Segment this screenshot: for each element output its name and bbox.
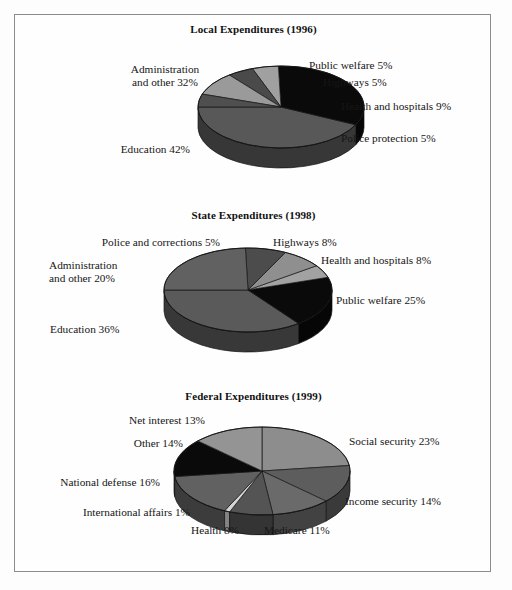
label-social-security-federal: Social security 23% bbox=[349, 435, 439, 448]
label-education-local: Education 42% bbox=[35, 143, 190, 156]
chart-federal-expenditures: Federal Expenditures (1999) Net interest… bbox=[15, 373, 492, 573]
label-highways-state: Highways 8% bbox=[273, 236, 337, 249]
label-net-interest-federal: Net interest 13% bbox=[55, 414, 205, 427]
label-administration-state: Administration and other 20% bbox=[49, 259, 117, 286]
chart-local-expenditures: Local Expenditures (1996) Administration… bbox=[15, 15, 492, 195]
chart-title-federal: Federal Expenditures (1999) bbox=[15, 390, 492, 402]
label-administration-local-line1: Administration bbox=[131, 63, 199, 75]
pie-chart-state bbox=[153, 238, 343, 363]
figure-frame: Local Expenditures (1996) Administration… bbox=[14, 14, 491, 572]
label-other-federal: Other 14% bbox=[35, 437, 183, 450]
pie-slice bbox=[164, 248, 248, 290]
label-administration-state-line2: and other 20% bbox=[49, 272, 115, 284]
chart-title-local: Local Expenditures (1996) bbox=[15, 23, 492, 35]
label-administration-local-line2: and other 32% bbox=[132, 76, 198, 88]
label-national-defense-federal: National defense 16% bbox=[15, 476, 160, 489]
pie-slice bbox=[262, 427, 349, 471]
chart-title-state: State Expenditures (1998) bbox=[15, 209, 492, 221]
label-administration-state-line1: Administration bbox=[49, 259, 117, 271]
page-canvas: Local Expenditures (1996) Administration… bbox=[0, 0, 512, 590]
label-public-welfare-state: Public welfare 25% bbox=[336, 294, 425, 307]
label-public-welfare-local: Public welfare 5% bbox=[309, 59, 392, 72]
label-health-federal: Health 8% bbox=[191, 524, 239, 537]
label-police-corrections-state: Police and corrections 5% bbox=[35, 236, 220, 249]
label-international-affairs-federal: International affairs 1% bbox=[15, 506, 190, 519]
label-education-state: Education 36% bbox=[50, 323, 119, 336]
chart-state-expenditures: State Expenditures (1998) Police and cor… bbox=[15, 195, 492, 373]
label-medicare-federal: Medicare 11% bbox=[264, 524, 330, 537]
label-administration-local: Administration and other 32% bbox=[100, 63, 230, 90]
label-police-protection-local: Police protection 5% bbox=[341, 132, 436, 145]
label-income-security-federal: Income security 14% bbox=[345, 495, 441, 508]
label-health-hospitals-local: Health and hospitals 9% bbox=[341, 100, 451, 113]
label-health-hospitals-state: Health and hospitals 8% bbox=[321, 254, 431, 267]
label-highways-local: Highways 5% bbox=[323, 76, 387, 89]
